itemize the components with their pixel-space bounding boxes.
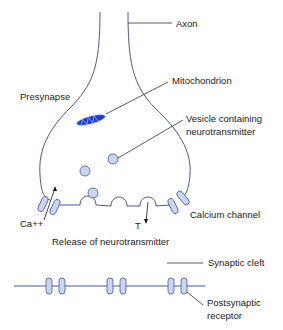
mitochondrion-label: Mitochondrion (172, 75, 232, 86)
presynaptic-membrane-bottom (60, 196, 170, 206)
receptor (46, 278, 52, 294)
axon-label: Axon (176, 18, 198, 29)
postsynaptic-label-line1: Postsynaptic (207, 297, 261, 308)
vesicle (88, 188, 98, 198)
ca-arrowhead (53, 186, 57, 191)
mitochondrion-icon (75, 112, 106, 127)
receptor (59, 278, 65, 294)
release-label: Release of neurotransmitter (52, 236, 169, 247)
receptor (107, 278, 113, 294)
synaptic-cleft-label: Synaptic cleft (208, 257, 265, 268)
calcium-channel-label: Calcium channel (190, 209, 260, 220)
synapse-diagram: Axon Presynapse Mitochondrion Vesicle co… (0, 0, 283, 330)
receptor (181, 278, 187, 294)
presynapse-label: Presynapse (20, 91, 70, 102)
receptor (120, 278, 126, 294)
presynaptic-membrane-right (128, 12, 190, 200)
postsynaptic-leader (187, 292, 203, 305)
receptor (168, 278, 174, 294)
vesicle-label-line2: neurotransmitter (186, 126, 255, 137)
vesicle-label-line1: Vesicle containing (186, 113, 262, 124)
presynaptic-membrane-left (40, 12, 100, 200)
calcium-channel-right-a (167, 197, 179, 214)
t-arrowhead (144, 219, 148, 224)
postsynaptic-label-line2: receptor (207, 310, 242, 321)
t-label: T (135, 220, 141, 231)
mitochondrion-leader (106, 82, 168, 114)
vesicle-leader (118, 120, 183, 158)
ca-label: Ca++ (20, 218, 44, 229)
vesicle (108, 154, 118, 164)
calcium-channel-right-b (176, 190, 191, 206)
vesicle (80, 166, 90, 176)
